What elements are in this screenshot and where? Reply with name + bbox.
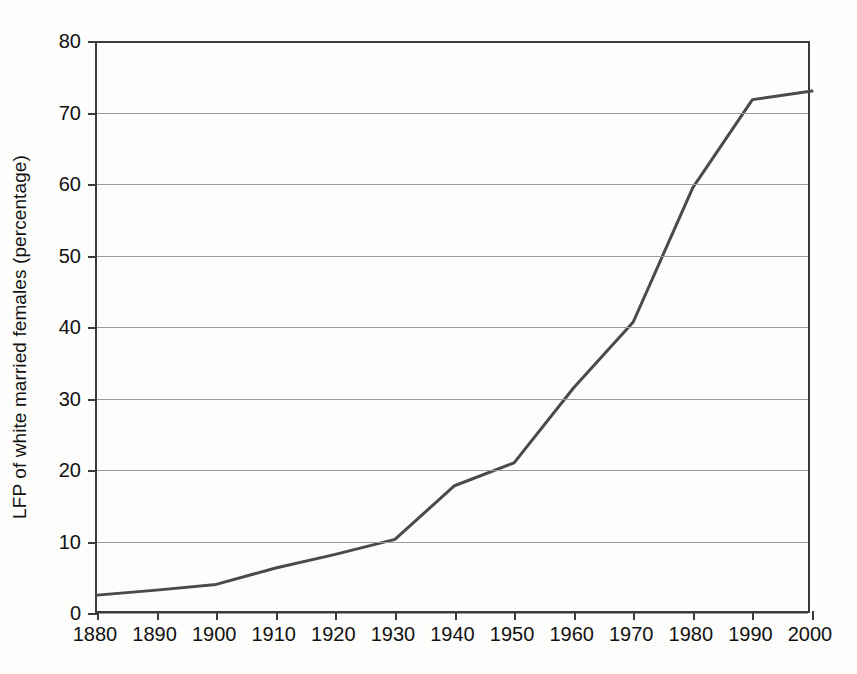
x-axis-tick bbox=[395, 611, 397, 620]
x-axis-tick bbox=[514, 611, 516, 620]
plot-area bbox=[95, 41, 810, 613]
y-axis-tick bbox=[88, 399, 97, 401]
y-axis-tick-label: 70 bbox=[33, 101, 81, 124]
y-gridline bbox=[97, 613, 808, 614]
x-axis-tick bbox=[812, 611, 814, 620]
y-axis-tick-label: 60 bbox=[33, 173, 81, 196]
y-axis-tick bbox=[88, 41, 97, 43]
y-axis-tick-label: 50 bbox=[33, 244, 81, 267]
y-axis-tick bbox=[88, 184, 97, 186]
y-axis-tick bbox=[88, 113, 97, 115]
y-axis-tick-label: 80 bbox=[33, 30, 81, 53]
x-axis-tick bbox=[633, 611, 635, 620]
x-axis-tick-label: 2000 bbox=[770, 623, 850, 646]
y-gridline bbox=[97, 327, 808, 328]
y-gridline bbox=[97, 542, 808, 543]
y-gridline bbox=[97, 184, 808, 185]
x-axis-tick bbox=[574, 611, 576, 620]
x-axis-tick bbox=[216, 611, 218, 620]
x-axis-tick bbox=[276, 611, 278, 620]
x-axis-tick bbox=[455, 611, 457, 620]
x-axis-tick bbox=[693, 611, 695, 620]
x-axis-tick bbox=[97, 611, 99, 620]
y-axis-tick bbox=[88, 470, 97, 472]
y-axis-tick bbox=[88, 327, 97, 329]
y-axis-tick-label: 30 bbox=[33, 387, 81, 410]
data-series-line bbox=[97, 91, 812, 595]
y-axis-tick-label: 40 bbox=[33, 316, 81, 339]
y-axis-tick bbox=[88, 256, 97, 258]
y-gridline bbox=[97, 41, 808, 43]
chart-figure: LFP of white married females (percentage… bbox=[0, 0, 857, 674]
x-axis-tick bbox=[752, 611, 754, 620]
y-axis-tick-label: 10 bbox=[33, 530, 81, 553]
y-gridline bbox=[97, 113, 808, 114]
x-axis-tick bbox=[157, 611, 159, 620]
y-gridline bbox=[97, 256, 808, 257]
x-axis-tick bbox=[335, 611, 337, 620]
y-axis-tick bbox=[88, 613, 97, 615]
y-gridline bbox=[97, 399, 808, 400]
y-gridline bbox=[97, 470, 808, 471]
y-axis-tick-label: 20 bbox=[33, 459, 81, 482]
y-axis-tick bbox=[88, 542, 97, 544]
y-axis-tick-label: 0 bbox=[33, 602, 81, 625]
